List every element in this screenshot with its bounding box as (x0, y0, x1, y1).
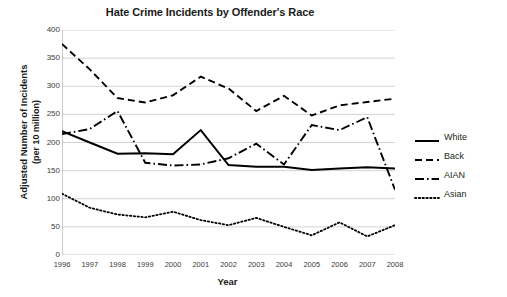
series-paths (62, 44, 395, 236)
chart-container: Hate Crime Incidents by Offender's Race … (0, 0, 507, 297)
plot-area (62, 30, 395, 255)
legend-item-asian[interactable]: Asian (414, 184, 506, 203)
legend-label: White (444, 132, 467, 142)
legend-swatch-aian (414, 170, 440, 180)
y-axis-title-line1: Adjusted Number of Incidents (18, 64, 29, 199)
x-axis-title: Year (60, 276, 395, 287)
y-tick-label: 200 (30, 139, 60, 147)
chart-title: Hate Crime Incidents by Offender's Race (0, 6, 420, 18)
series-line-back (62, 44, 395, 115)
series-line-aian (62, 111, 395, 190)
gridlines (62, 30, 395, 255)
y-tick-label: 300 (30, 82, 60, 90)
chart-legend: WhiteBackAIANAsian (414, 127, 506, 203)
series-line-asian (62, 194, 395, 237)
legend-label: Asian (444, 189, 467, 199)
y-tick-label: 0 (30, 251, 60, 259)
series-line-white (62, 130, 395, 170)
y-tick-label: 100 (30, 195, 60, 203)
plot-svg (62, 30, 395, 255)
y-tick-label: 50 (30, 223, 60, 231)
legend-label: AIAN (444, 170, 465, 180)
legend-item-back[interactable]: Back (414, 146, 506, 165)
y-tick-label: 150 (30, 167, 60, 175)
y-tick-label: 250 (30, 110, 60, 118)
legend-label: Back (444, 151, 464, 161)
legend-swatch-white (414, 132, 440, 142)
legend-swatch-asian (414, 189, 440, 199)
legend-item-aian[interactable]: AIAN (414, 165, 506, 184)
y-tick-label: 350 (30, 54, 60, 62)
legend-swatch-back (414, 151, 440, 161)
legend-item-white[interactable]: White (414, 127, 506, 146)
x-tick-label: 2008 (378, 260, 412, 269)
y-tick-label: 400 (30, 26, 60, 34)
